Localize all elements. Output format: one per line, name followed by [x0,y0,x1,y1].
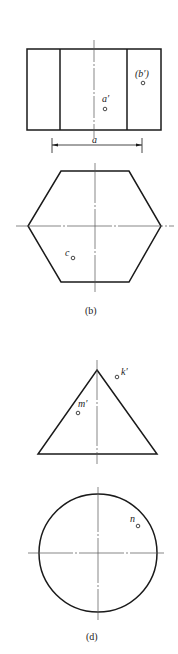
hexagon [28,171,161,282]
point-a-marker [103,107,107,111]
arrow-left-icon [52,144,58,147]
point-c-marker [71,256,75,260]
figure-b-top-view: c [16,163,174,292]
point-b-label: (b′) [135,68,150,80]
cone-triangle [38,370,157,454]
figure-d-top-view: n [28,487,164,620]
point-b-marker [141,81,145,85]
figure-d-front-view: k′ m′ [38,360,157,464]
point-a-label: a′ [102,93,110,104]
point-c-label: c [65,247,70,258]
drawing-canvas: a′ (b′) a c (b) k′ m′ n (d) [0,0,178,654]
point-m-label: m′ [78,398,88,409]
point-n-label: n [130,513,135,524]
point-k-label: k′ [121,366,128,377]
point-n-marker [136,524,140,528]
caption-b: (b) [85,305,97,317]
figure-b-front-view: a′ (b′) [27,40,161,138]
point-k-marker [115,375,119,379]
point-m-marker [76,411,80,415]
caption-d: (d) [86,631,98,643]
arrow-right-icon [136,144,142,147]
dimension-a: a [52,134,142,153]
dimension-label: a [92,134,97,145]
